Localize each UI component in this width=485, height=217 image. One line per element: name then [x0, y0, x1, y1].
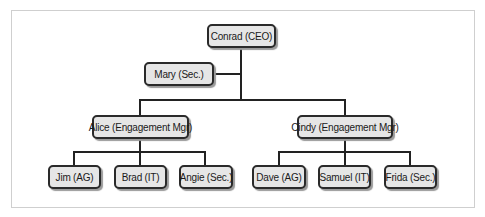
node-report-dave: Dave (AG) — [252, 165, 306, 189]
node-report-frida: Frida (Sec.) — [384, 165, 437, 189]
node-manager-cindy: Cindy (Engagement Mgr) — [297, 115, 393, 139]
connector-assistant — [213, 73, 241, 75]
connector-frida-up — [409, 151, 411, 165]
node-ceo: Conrad (CEO) — [207, 24, 276, 48]
node-assistant: Mary (Sec.) — [144, 62, 214, 86]
connector-brad-up — [139, 151, 141, 165]
node-manager-alice: Alice (Engagement Mgr) — [92, 115, 189, 139]
node-report-brad: Brad (IT) — [114, 165, 167, 189]
connector-alice-up — [139, 99, 141, 115]
node-report-angie: Angie (Sec.) — [179, 165, 233, 189]
connector-angie-up — [204, 151, 206, 165]
node-report-samuel: Samuel (IT) — [318, 165, 371, 189]
connector-managers-bar — [139, 99, 346, 101]
connector-jim-up — [73, 151, 75, 165]
connector-dave-up — [278, 151, 280, 165]
node-report-jim: Jim (AG) — [48, 165, 101, 189]
connector-samuel-up — [344, 151, 346, 165]
connector-cindy-up — [344, 99, 346, 115]
